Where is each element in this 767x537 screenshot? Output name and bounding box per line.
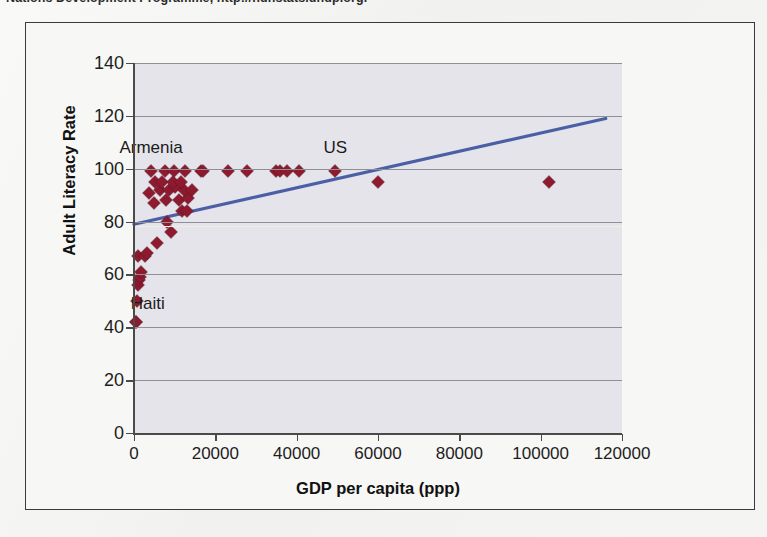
y-axis-tick	[126, 63, 133, 64]
y-tick-label-text: 40	[72, 317, 124, 338]
gridline-y	[134, 116, 622, 117]
x-axis-tick	[134, 434, 135, 441]
plot-area: ArmeniaHaitiUS	[134, 63, 622, 433]
x-axis-tick	[215, 434, 216, 441]
y-axis-tick	[126, 380, 133, 381]
x-axis-tick	[622, 434, 623, 441]
gridline-y	[134, 274, 622, 275]
point-label-armenia: Armenia	[119, 138, 182, 158]
gridline-y	[134, 222, 622, 223]
point-label-haiti: Haiti	[131, 294, 165, 314]
y-tick-label-text: 0	[72, 423, 124, 444]
x-tick-label: 0	[129, 444, 138, 464]
y-axis-tick	[126, 274, 133, 275]
caption-text: Nations Development Programme, http://hd…	[6, 0, 367, 5]
x-axis-tick	[297, 434, 298, 441]
caption-strip: Nations Development Programme, http://hd…	[0, 0, 767, 13]
x-tick-label: 20000	[192, 444, 239, 464]
y-tick-label-text: 80	[72, 212, 124, 233]
gridline-y	[134, 327, 622, 328]
y-axis-title: Adult Literacy Rate	[60, 76, 79, 286]
y-axis-tick	[126, 116, 133, 117]
y-tick-label-text: 140	[72, 53, 124, 74]
x-tick-label: 80000	[436, 444, 483, 464]
x-tick-label: 40000	[273, 444, 320, 464]
x-axis-tick	[541, 434, 542, 441]
x-axis-tick	[378, 434, 379, 441]
x-tick-label: 120000	[594, 444, 651, 464]
x-axis-tick	[459, 434, 460, 441]
x-tick-label: 100000	[512, 444, 569, 464]
y-tick-label-text: 100	[72, 159, 124, 180]
figure-frame: ArmeniaHaitiUS 020406080100120140 020000…	[25, 22, 755, 510]
gridline-y	[134, 380, 622, 381]
gridline-y	[134, 63, 622, 64]
y-axis-tick	[126, 327, 133, 328]
gridline-highlight	[134, 226, 622, 227]
y-tick-label-text: 120	[72, 106, 124, 127]
y-tick-label-text: 60	[72, 264, 124, 285]
y-tick-label-text: 20	[72, 370, 124, 391]
x-tick-label: 60000	[354, 444, 401, 464]
gridline-y	[134, 169, 622, 170]
y-axis-line	[133, 63, 135, 434]
y-axis-tick	[126, 169, 133, 170]
trendline	[134, 63, 622, 433]
scatter-chart: ArmeniaHaitiUS 020406080100120140 020000…	[26, 23, 756, 511]
point-label-us: US	[323, 138, 347, 158]
y-axis-tick	[126, 222, 133, 223]
x-axis-title: GDP per capita (ppp)	[134, 479, 622, 498]
y-axis-tick	[126, 433, 133, 434]
